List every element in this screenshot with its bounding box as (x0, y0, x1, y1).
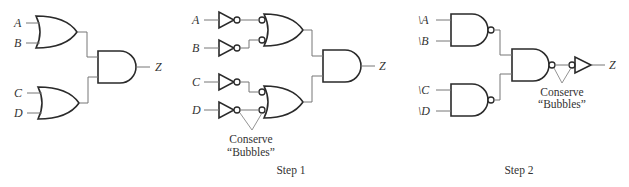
panel-original: A B C D Z (13, 16, 162, 120)
inverter-b (219, 40, 234, 56)
and-gate (98, 51, 136, 83)
conserve-bubbles-pointer (240, 113, 262, 130)
input-label-d: D (13, 106, 23, 120)
inverter-output (575, 57, 591, 73)
inverter-c (219, 74, 234, 90)
or-gate-bottom-bubbled (264, 86, 303, 118)
input-label-not-d: \D (418, 104, 430, 118)
nand-gate-bottom (451, 84, 488, 116)
conserve-annotation: Conserve (229, 133, 272, 145)
inverter-a (219, 12, 234, 28)
or-gate-bottom (38, 87, 79, 119)
input-label-not-a: \A (418, 13, 429, 27)
input-label-b: B (192, 41, 200, 55)
logic-diagram: A B C D Z (0, 0, 629, 187)
input-label-not-c: \C (418, 83, 430, 97)
or-gate-top (36, 16, 77, 48)
panel-step2: \A \B \C \D Z Conserve “Bubbles” Step 2 (418, 13, 616, 177)
nand-gate-center (512, 49, 549, 81)
conserve-bubbles-pointer (554, 68, 571, 83)
output-label-z: Z (379, 59, 386, 73)
input-label-a: A (13, 16, 22, 30)
bubbles-annotation: “Bubbles” (227, 146, 275, 158)
inverter-d (219, 102, 234, 118)
step-caption: Step 2 (504, 164, 533, 177)
panel-step1: A B C D Z Conserve “Bubbles” Step 1 (191, 12, 386, 177)
input-label-b: B (14, 36, 22, 50)
bubbles-annotation: “Bubbles” (538, 98, 586, 110)
input-label-c: C (192, 75, 201, 89)
step-caption: Step 1 (276, 164, 305, 177)
input-label-d: D (191, 103, 201, 117)
output-label-z: Z (609, 58, 616, 72)
output-label-z: Z (155, 60, 162, 74)
nand-gate-top (451, 14, 488, 46)
input-label-not-b: \B (418, 34, 429, 48)
input-label-a: A (191, 13, 200, 27)
and-gate (323, 50, 361, 82)
or-gate-top-bubbled (264, 14, 303, 46)
input-label-c: C (14, 86, 23, 100)
conserve-annotation: Conserve (540, 86, 583, 98)
